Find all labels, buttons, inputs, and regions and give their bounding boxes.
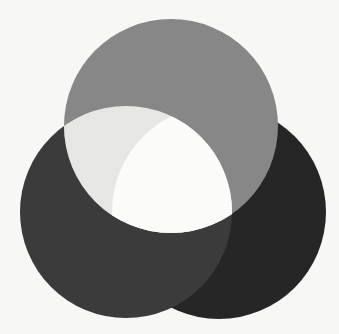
- figure: [0, 0, 339, 334]
- three-circle-figure: [0, 0, 339, 334]
